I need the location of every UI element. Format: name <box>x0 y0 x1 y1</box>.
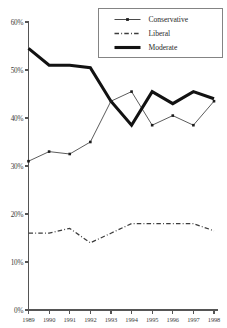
legend-label-liberal: Liberal <box>149 29 171 38</box>
data-point-marker <box>27 160 30 163</box>
legend-label-moderate: Moderate <box>149 43 178 52</box>
x-tick-label: 1996 <box>167 316 179 323</box>
chart-canvas: 0%10%20%30%40%50%60%19891990199119921993… <box>0 0 227 328</box>
data-point-marker <box>110 100 113 103</box>
x-tick-label: 1989 <box>22 316 34 323</box>
x-tick-label: 1990 <box>43 316 55 323</box>
y-tick-label: 50% <box>11 67 24 75</box>
data-point-marker <box>68 153 71 156</box>
series-line-liberal <box>29 224 215 243</box>
x-tick-label: 1991 <box>64 316 76 323</box>
y-tick-label: 0% <box>14 307 23 315</box>
y-tick-label: 60% <box>11 19 24 27</box>
data-point-marker <box>130 90 133 93</box>
data-point-marker <box>89 141 92 144</box>
x-tick-label: 1997 <box>187 316 200 323</box>
data-point-marker <box>48 150 51 153</box>
marker-group <box>27 90 215 162</box>
y-tick-label: 40% <box>11 115 24 123</box>
data-point-marker <box>213 100 216 103</box>
x-tick-label: 1994 <box>125 316 138 323</box>
x-tick-label: 1998 <box>208 316 220 323</box>
data-point-marker <box>171 114 174 117</box>
y-tick-label: 10% <box>11 259 24 267</box>
legend-marker-conservative <box>126 18 129 21</box>
x-tick-label: 1995 <box>146 316 158 323</box>
line-chart-figure: 0%10%20%30%40%50%60%19891990199119921993… <box>0 0 227 328</box>
y-tick-label: 30% <box>11 163 24 171</box>
legend-label-conservative: Conservative <box>149 15 189 24</box>
x-tick-label: 1993 <box>105 316 117 323</box>
series-group <box>29 48 215 242</box>
data-point-marker <box>192 124 195 127</box>
series-line-conservative <box>29 92 215 162</box>
series-line-moderate <box>29 48 215 125</box>
y-tick-label: 20% <box>11 211 24 219</box>
x-tick-label: 1992 <box>84 316 96 323</box>
chart-legend: ConservativeLiberalModerate <box>99 8 223 57</box>
axes-group: 0%10%20%30%40%50%60%19891990199119921993… <box>11 19 221 323</box>
data-point-marker <box>151 124 154 127</box>
